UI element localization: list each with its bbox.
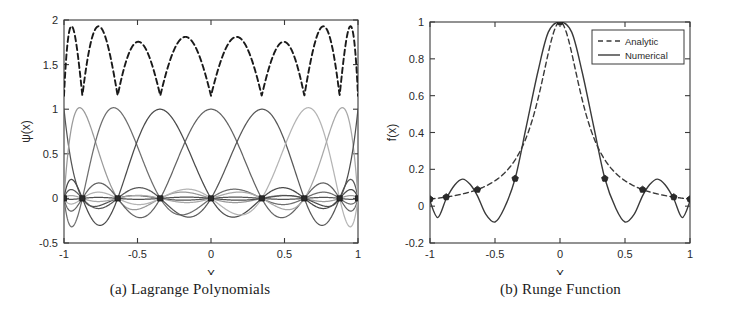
lagrange-basis-curve	[64, 108, 358, 227]
y-tick-label: 0.6	[409, 90, 424, 102]
y-tick-label: 0.5	[43, 148, 58, 160]
y-tick-label: 0	[418, 200, 424, 212]
y-axis-title: ψ(x)	[19, 120, 33, 143]
y-tick-label: 0.8	[409, 53, 424, 65]
legend[interactable]: AnalyticNumerical	[592, 30, 684, 64]
x-tick-label: 0.5	[617, 248, 632, 260]
plot-frame	[64, 20, 358, 243]
node-marker	[208, 196, 213, 201]
y-axis-title: f(x)	[385, 124, 399, 141]
lagrange-basis-curve	[64, 109, 358, 225]
x-tick-label: 0	[208, 248, 214, 260]
node-marker	[302, 196, 307, 201]
y-tick-label: 1.5	[43, 59, 58, 71]
x-axis-title: X	[556, 268, 564, 275]
y-tick-label: 0	[52, 192, 58, 204]
node-marker	[61, 196, 66, 201]
node-marker	[639, 186, 645, 192]
x-tick-label: -0.5	[128, 248, 147, 260]
caption-panel-a: (a) Lagrange Polynomials	[0, 281, 380, 298]
y-tick-label: 1	[418, 16, 424, 28]
y-tick-label: -0.5	[39, 237, 58, 249]
node-marker	[474, 186, 480, 192]
node-marker	[259, 196, 264, 201]
legend-label: Numerical	[625, 50, 668, 61]
panel-lagrange-polynomials: -1-0.500.51-0.500.511.52Xψ(x) (a) Lagran…	[0, 0, 380, 319]
node-marker	[427, 196, 433, 202]
lagrange-basis-curve	[64, 109, 358, 206]
x-tick-label: 1	[355, 248, 361, 260]
x-tick-label: -1	[59, 248, 69, 260]
y-tick-label: -0.2	[405, 237, 424, 249]
plot-area	[61, 26, 360, 227]
x-tick-label: -0.5	[486, 248, 505, 260]
lebesgue-function-curve	[64, 26, 358, 96]
legend-label: Analytic	[625, 36, 659, 47]
node-marker	[512, 175, 518, 181]
caption-panel-b: (b) Runge Function	[380, 281, 741, 298]
axes: -1-0.500.51-0.500.511.52Xψ(x)	[19, 14, 361, 275]
y-tick-label: 1	[52, 103, 58, 115]
lagrange-basis-curve	[64, 108, 358, 227]
node-marker	[687, 196, 693, 202]
panel-runge-function: -1-0.500.51-0.200.20.40.60.81Xf(x)Analyt…	[380, 0, 741, 319]
x-axis-title: X	[207, 268, 215, 275]
y-tick-label: 0.2	[409, 163, 424, 175]
node-marker	[158, 196, 163, 201]
x-tick-label: -1	[425, 248, 435, 260]
y-tick-label: 0.4	[409, 127, 424, 139]
x-tick-label: 0.5	[277, 248, 292, 260]
node-marker	[337, 196, 342, 201]
x-tick-label: 1	[687, 248, 693, 260]
x-tick-label: 0	[557, 248, 563, 260]
figure-container: -1-0.500.51-0.500.511.52Xψ(x) (a) Lagran…	[0, 0, 741, 319]
runge-function-chart: -1-0.500.51-0.200.20.40.60.81Xf(x)Analyt…	[380, 0, 741, 275]
node-marker	[602, 175, 608, 181]
lagrange-basis-curve	[64, 109, 358, 206]
node-marker	[355, 196, 360, 201]
node-marker	[80, 196, 85, 201]
lagrange-polynomials-chart: -1-0.500.51-0.500.511.52Xψ(x)	[0, 0, 380, 275]
lagrange-basis-curve	[64, 109, 358, 225]
y-tick-label: 2	[52, 14, 58, 26]
node-marker	[115, 196, 120, 201]
